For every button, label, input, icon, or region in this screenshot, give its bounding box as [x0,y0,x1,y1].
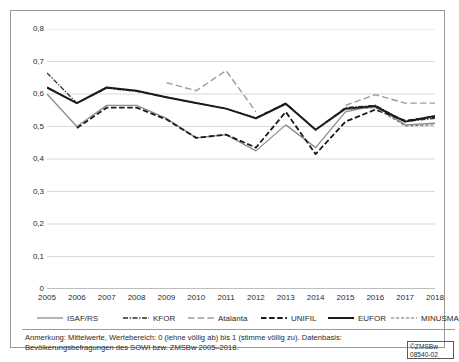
series-line-isaf-rs [47,94,435,151]
y-axis-tick-label: 0,8 [33,25,44,33]
series-line-kfor [47,73,435,130]
y-axis: 00,10,20,30,40,50,60,70,8 [23,29,44,289]
line-chart-svg [47,29,435,289]
x-axis-tick-label: 2010 [187,293,205,303]
y-axis-tick-label: 0,6 [33,90,44,98]
chart-note: Anmerkung: Mittelwerte, Wertebereich: 0 … [25,333,403,353]
copyright-box: ©ZMSBw 08540-02 [407,341,454,359]
legend-label: ISAF/RS [67,314,98,323]
legend-swatch-minusma-icon [391,313,417,323]
legend-label: KFOR [153,314,175,323]
legend-item-atalanta[interactable]: Atalanta [188,311,247,325]
legend-label: MINUSMA [421,314,459,323]
legend-swatch-eufor-icon [328,313,354,323]
legend-swatch-kfor-icon [123,313,149,323]
chart-frame: 00,10,20,30,40,50,60,70,8 20052006200720… [10,10,445,348]
copyright-line-1: ©ZMSBw [410,343,453,351]
x-axis-tick-label: 2012 [247,293,265,303]
legend-label: UNIFIL [291,314,316,323]
y-axis-tick-label: 0,2 [33,220,44,228]
copyright-line-2: 08540-02 [410,351,453,359]
legend-item-eufor[interactable]: EUFOR [328,311,386,325]
x-axis-tick-label: 2008 [128,293,146,303]
legend-item-isaf-rs[interactable]: ISAF/RS [37,311,98,325]
y-axis-tick-label: 0,5 [33,123,44,131]
x-axis-tick-label: 2006 [68,293,86,303]
legend-swatch-atalanta-icon [188,313,214,323]
x-axis-tick-label: 2005 [38,293,56,303]
x-axis: 2005200620072008200920102011201220132014… [47,293,435,305]
series-line-unifil [77,108,435,154]
x-axis-tick-label: 2007 [98,293,116,303]
y-axis-tick-label: 0 [40,285,44,293]
x-axis-tick-label: 2011 [217,293,234,303]
chart-legend: ISAF/RSKFORAtalantaUNIFILEUFORMINUSMA [23,311,434,325]
legend-item-kfor[interactable]: KFOR [123,311,175,325]
series-paths [47,71,435,155]
y-axis-tick-label: 0,7 [33,58,44,66]
x-axis-tick-label: 2015 [337,293,355,303]
x-axis-tick-label: 2017 [396,293,414,303]
y-axis-tick-label: 0,4 [33,155,44,163]
x-axis-tick-label: 2016 [366,293,384,303]
plot-area [47,29,435,289]
legend-swatch-unifil-icon [261,313,287,323]
note-divider [22,329,455,330]
y-axis-tick-label: 0,3 [33,188,44,196]
legend-item-minusma[interactable]: MINUSMA [391,311,459,325]
legend-label: EUFOR [358,314,386,323]
x-axis-tick-label: 2018 [426,293,444,303]
gridlines [47,29,435,289]
legend-swatch-isaf-rs-icon [37,313,63,323]
x-axis-tick-label: 2014 [307,293,325,303]
x-axis-tick-label: 2009 [157,293,175,303]
y-axis-tick-label: 0,1 [33,253,44,261]
x-axis-tick-label: 2013 [277,293,295,303]
legend-item-unifil[interactable]: UNIFIL [261,311,316,325]
legend-label: Atalanta [218,314,247,323]
series-line-atalanta [345,95,435,106]
